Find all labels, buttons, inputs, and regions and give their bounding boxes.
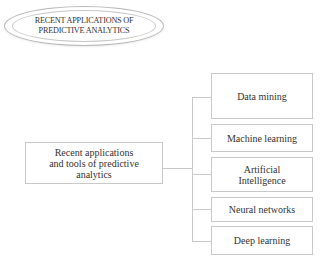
branch-connector-deep-learning bbox=[192, 241, 211, 242]
title-line-2: PREDICTIVE ANALYTICS bbox=[39, 26, 130, 36]
node-neural-networks: Neural networks bbox=[211, 197, 313, 222]
node-artificial-intelligence: Artificial Intelligence bbox=[211, 157, 313, 192]
node-data-mining-label: Data mining bbox=[237, 91, 287, 102]
root-node: Recent applications and tools of predict… bbox=[25, 142, 163, 184]
node-machine-learning-label: Machine learning bbox=[227, 133, 297, 144]
trunk-connector bbox=[192, 97, 193, 242]
node-deep-learning-label: Deep learning bbox=[234, 235, 290, 246]
branch-connector-machine-learning bbox=[192, 138, 211, 139]
root-line-1: Recent applications bbox=[55, 147, 134, 158]
title-ellipse: RECENT APPLICATIONS OF PREDICTIVE ANALYT… bbox=[12, 10, 156, 42]
branch-connector-neural-networks bbox=[192, 209, 211, 210]
node-deep-learning: Deep learning bbox=[211, 226, 313, 255]
branch-connector-ai bbox=[192, 174, 211, 175]
node-machine-learning: Machine learning bbox=[211, 124, 313, 152]
root-line-3: analytics bbox=[76, 169, 112, 180]
title-line-1: RECENT APPLICATIONS OF bbox=[35, 16, 134, 26]
branch-connector-data-mining bbox=[192, 97, 211, 98]
node-neural-networks-label: Neural networks bbox=[229, 204, 295, 215]
node-ai-label-line-2: Intelligence bbox=[238, 175, 285, 186]
root-line-2: and tools of predictive bbox=[49, 158, 139, 169]
node-data-mining: Data mining bbox=[211, 73, 313, 119]
root-connector bbox=[163, 168, 192, 169]
node-ai-label-line-1: Artificial bbox=[244, 164, 281, 175]
